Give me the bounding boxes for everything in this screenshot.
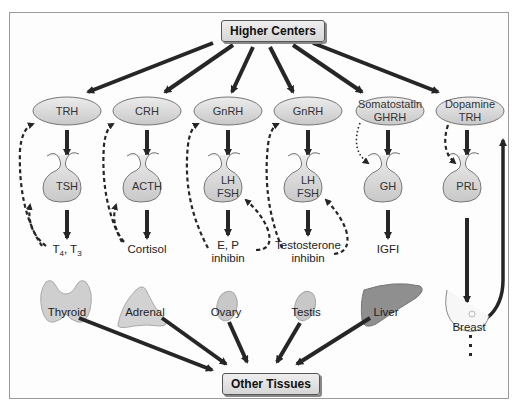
- hormone-inhibin-testis: inhibin: [291, 252, 324, 265]
- hypothalamic-gnrh-ovary: GnRH: [213, 105, 244, 117]
- hormone-cortisol: Cortisol: [128, 243, 167, 256]
- hypothalamic-dopamine: Dopamine: [445, 98, 495, 110]
- pituitary-lh-testis: LH: [301, 174, 315, 186]
- hormone-e-p: E, P: [217, 239, 239, 252]
- diagram-arrows: [0, 0, 519, 409]
- hormone-t4-t3: T4, T3: [52, 243, 81, 260]
- other-tissues-node: Other Tissues: [222, 373, 320, 395]
- organ-adrenal: Adrenal: [125, 306, 165, 319]
- hormone-igfi: IGFI: [377, 243, 399, 256]
- organ-ovary: Ovary: [211, 306, 242, 319]
- organ-liver: Liver: [374, 306, 399, 319]
- pituitary-fsh-testis: FSH: [297, 187, 319, 199]
- organ-thyroid: Thyroid: [48, 306, 86, 319]
- pituitary-tsh: TSH: [56, 180, 78, 192]
- pituitary-prl: PRL: [456, 180, 477, 192]
- organ-breast: Breast: [452, 321, 485, 334]
- hypothalamic-gnrh-testis: GnRH: [293, 105, 324, 117]
- pituitary-acth: ACTH: [132, 180, 162, 192]
- organ-testis: Testis: [291, 306, 320, 319]
- hormone-inhibin-ovary: inhibin: [211, 252, 244, 265]
- hypothalamic-trh: TRH: [56, 105, 79, 117]
- higher-centers-node: Higher Centers: [221, 20, 325, 42]
- pituitary-fsh-ovary: FSH: [217, 187, 239, 199]
- pituitary-lh-ovary: LH: [221, 174, 235, 186]
- hypothalamic-trh-prl: TRH: [459, 111, 482, 123]
- hormone-testosterone: Testosterone: [275, 239, 341, 252]
- pituitary-gh: GH: [380, 180, 397, 192]
- hypothalamic-crh: CRH: [135, 105, 159, 117]
- hypothalamic-somatostatin: Somatostatin: [358, 98, 422, 110]
- hypothalamic-ghrh: GHRH: [374, 111, 406, 123]
